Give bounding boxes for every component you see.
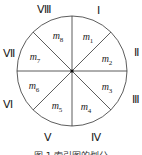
region-label-4: Ⅳ — [91, 132, 101, 143]
region-label-1: Ⅰ — [97, 5, 100, 16]
sector-label-m6: m6 — [29, 81, 40, 94]
region-label-2: Ⅱ — [134, 47, 139, 58]
region-label-7: Ⅶ — [3, 48, 15, 59]
sector-label-m3: m3 — [102, 82, 113, 95]
sector-label-m5: m5 — [52, 101, 63, 114]
sector-label-m1: m1 — [83, 32, 94, 45]
sector-label-m7: m7 — [30, 52, 41, 65]
center-dot — [70, 69, 73, 72]
sector-label-m4: m4 — [81, 102, 92, 115]
region-label-6: Ⅵ — [3, 99, 13, 110]
sector-label-m8: m8 — [53, 31, 64, 44]
sector-label-m2: m2 — [102, 54, 113, 67]
region-label-8: Ⅷ — [37, 4, 51, 15]
region-label-3: Ⅲ — [132, 94, 140, 105]
sector-diagram — [0, 0, 142, 155]
region-label-5: Ⅴ — [44, 132, 52, 143]
figure-caption: 图 1 索引图的划分 — [0, 149, 142, 155]
